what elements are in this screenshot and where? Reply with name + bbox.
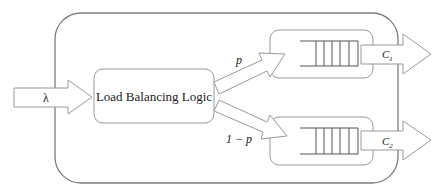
input-arrow <box>14 80 92 114</box>
arrival-rate-label: λ <box>43 91 49 105</box>
load-balancing-diagram: λ Load Balancing Logic p 1 − p C1 C2 <box>0 0 448 192</box>
load-balancer-label: Load Balancing Logic <box>96 89 212 104</box>
branch-label-p: p <box>235 53 242 67</box>
branch-label-1-minus-p: 1 − p <box>226 132 252 146</box>
